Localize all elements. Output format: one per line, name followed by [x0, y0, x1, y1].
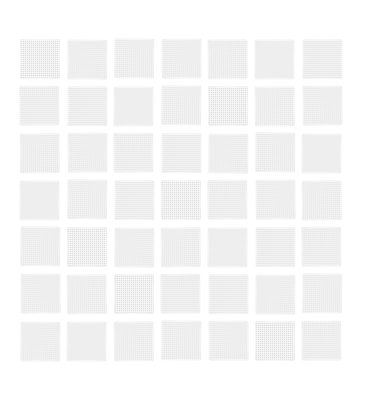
- image-canvas: [0, 0, 369, 406]
- square-r3c7: [301, 133, 341, 173]
- square-r4c5: [207, 180, 247, 220]
- square-r2c7: [302, 85, 342, 125]
- square-r6c3: [114, 274, 154, 314]
- square-r1c2: [67, 40, 107, 80]
- square-r7c3: [114, 321, 154, 361]
- square-r5c6: [255, 227, 295, 267]
- square-r5c3: [114, 228, 154, 268]
- square-r7c6: [255, 321, 295, 361]
- square-r2c6: [255, 86, 295, 126]
- square-r1c6: [254, 39, 294, 79]
- square-r2c3: [113, 86, 153, 126]
- square-r4c3: [114, 180, 154, 220]
- square-r3c4: [161, 133, 201, 173]
- square-r2c2: [67, 86, 107, 126]
- square-r6c7: [302, 273, 342, 313]
- square-r4c1: [19, 180, 59, 220]
- square-r1c4: [161, 38, 201, 78]
- square-r7c4: [161, 320, 201, 360]
- square-r5c5: [207, 227, 247, 267]
- square-grid: [20, 39, 342, 361]
- square-r3c5: [208, 134, 248, 174]
- square-r4c7: [302, 180, 342, 220]
- square-r5c2: [67, 227, 107, 267]
- square-r7c1: [20, 322, 60, 362]
- square-r3c1: [20, 133, 60, 173]
- square-r1c7: [302, 39, 342, 79]
- square-r1c5: [208, 39, 248, 79]
- square-r3c2: [67, 132, 107, 172]
- square-r1c3: [114, 38, 154, 78]
- square-r2c4: [161, 85, 201, 125]
- square-r7c7: [301, 321, 341, 361]
- square-r1c1: [20, 39, 60, 79]
- square-r3c6: [255, 132, 295, 172]
- square-r5c1: [20, 226, 60, 266]
- square-r2c1: [19, 86, 59, 126]
- square-r6c2: [67, 274, 107, 314]
- square-r6c5: [208, 274, 248, 314]
- square-r7c5: [208, 320, 248, 360]
- square-r7c2: [66, 321, 106, 361]
- square-r5c7: [301, 227, 341, 267]
- square-r6c4: [160, 274, 200, 314]
- square-r4c4: [161, 180, 201, 220]
- square-r5c4: [161, 227, 201, 267]
- square-r6c1: [20, 273, 60, 313]
- square-r6c6: [255, 275, 295, 315]
- square-r4c2: [67, 179, 107, 219]
- square-r2c5: [208, 86, 248, 126]
- square-r4c6: [255, 179, 295, 219]
- square-r3c3: [113, 133, 153, 173]
